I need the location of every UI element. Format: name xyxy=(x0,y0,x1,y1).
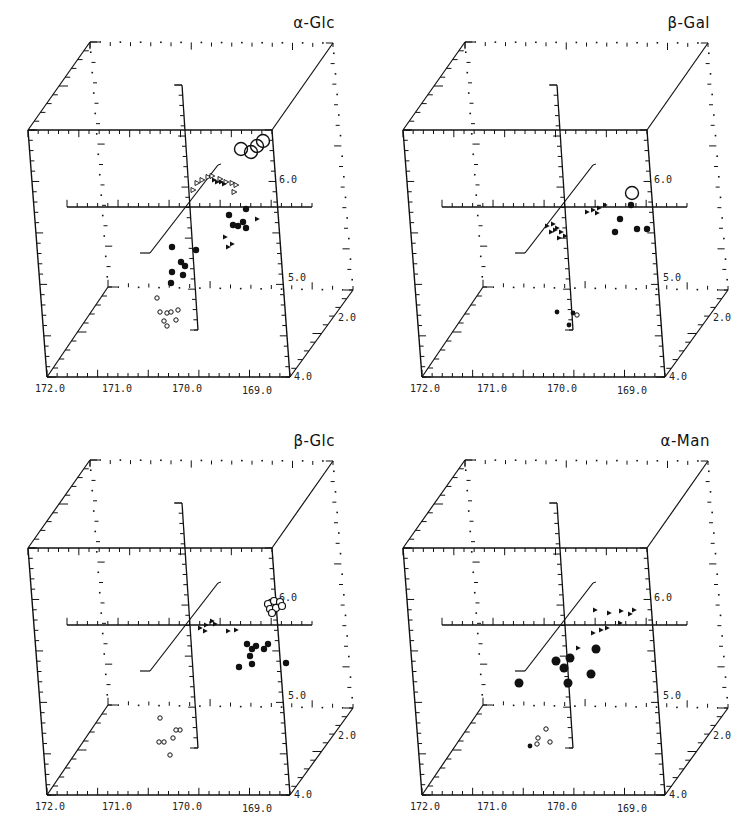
data-point xyxy=(162,740,166,744)
data-point xyxy=(169,310,173,314)
axis-tick-label: 169.0 xyxy=(242,803,272,814)
data-point xyxy=(585,210,590,215)
axis-tick-label: 5.0 xyxy=(288,272,306,283)
data-point xyxy=(557,236,562,241)
data-point xyxy=(593,608,598,613)
panel-title: β-Glc xyxy=(293,432,335,450)
data-point xyxy=(234,628,239,633)
data-point xyxy=(213,622,218,627)
data-point xyxy=(157,740,161,744)
data-point xyxy=(158,310,162,314)
axis-tick-label: 2.0 xyxy=(338,730,356,741)
data-point xyxy=(644,226,650,232)
data-point xyxy=(240,219,246,225)
axis-tick-label: 169.0 xyxy=(617,385,647,396)
data-point xyxy=(174,728,178,732)
data-point xyxy=(548,740,552,744)
data-point xyxy=(619,609,624,614)
panel-beta-gal: 172.0171.0170.0169.06.05.02.04.0 β-Gal xyxy=(375,0,749,418)
data-point xyxy=(171,736,175,740)
axis-tick-label: 172.0 xyxy=(410,383,440,394)
data-point xyxy=(203,629,208,634)
data-point xyxy=(628,202,634,208)
data-point xyxy=(176,308,180,312)
axis-tick-label: 2.0 xyxy=(713,730,731,741)
cube-plot: 172.0171.0170.0169.06.05.02.04.0 xyxy=(0,418,375,836)
data-point xyxy=(555,310,560,315)
cube-plot: 172.0171.0170.0169.06.05.02.04.0 xyxy=(375,418,749,836)
data-point xyxy=(180,272,186,278)
data-point xyxy=(567,323,572,328)
panel-beta-glc: 172.0171.0170.0169.06.05.02.04.0 β-Glc xyxy=(0,418,375,836)
data-point xyxy=(168,280,174,286)
data-point xyxy=(243,206,249,212)
axis-tick-label: 172.0 xyxy=(35,801,65,812)
data-point xyxy=(544,727,548,731)
data-point xyxy=(552,657,561,666)
data-point xyxy=(605,626,610,631)
data-point xyxy=(235,223,241,229)
axis-tick-label: 6.0 xyxy=(654,592,672,603)
data-point xyxy=(236,664,242,670)
panel-title: α-Glc xyxy=(293,14,335,32)
axis-tick-label: 169.0 xyxy=(242,385,272,396)
data-point xyxy=(226,212,232,218)
data-point xyxy=(169,244,175,250)
data-point xyxy=(232,190,237,195)
panel-alpha-glc: 172.0171.0170.0169.06.05.02.04.0 α-Glc xyxy=(0,0,375,418)
axis-tick-label: 2.0 xyxy=(713,312,731,323)
data-point xyxy=(591,631,596,636)
axis-tick-label: 5.0 xyxy=(288,690,306,701)
axis-tick-label: 6.0 xyxy=(654,174,672,185)
data-point xyxy=(515,679,524,688)
data-point xyxy=(560,664,569,673)
data-point xyxy=(182,263,188,269)
axis-tick-label: 170.0 xyxy=(547,801,577,812)
cube-plot: 172.0171.0170.0169.06.05.02.04.0 xyxy=(375,0,749,418)
data-point xyxy=(279,603,286,610)
axis-tick-label: 6.0 xyxy=(279,174,297,185)
data-point xyxy=(162,319,166,323)
data-point xyxy=(249,661,255,667)
axis-tick-label: 170.0 xyxy=(172,801,202,812)
data-point xyxy=(253,643,259,649)
data-point xyxy=(265,641,271,647)
data-point xyxy=(599,628,604,633)
data-point xyxy=(564,679,573,688)
data-point xyxy=(244,641,250,647)
data-point xyxy=(617,216,623,222)
data-point xyxy=(198,626,203,631)
data-point xyxy=(528,744,533,749)
data-point xyxy=(269,610,276,617)
axis-tick-label: 169.0 xyxy=(617,803,647,814)
data-point xyxy=(247,653,253,659)
cube-plot: 172.0171.0170.0169.06.05.02.04.0 xyxy=(0,0,375,418)
data-point xyxy=(535,742,539,746)
data-point xyxy=(632,608,637,613)
axis-tick-label: 2.0 xyxy=(338,312,356,323)
data-point xyxy=(193,247,199,253)
data-point xyxy=(261,646,267,652)
data-point xyxy=(612,229,618,235)
data-point xyxy=(234,183,239,188)
data-point xyxy=(607,611,612,616)
data-point xyxy=(165,324,169,328)
data-point xyxy=(200,178,205,183)
data-point xyxy=(243,225,249,231)
axis-tick-label: 4.0 xyxy=(294,789,312,800)
data-point xyxy=(576,646,581,651)
data-point xyxy=(174,318,178,322)
axis-tick-label: 171.0 xyxy=(477,383,507,394)
data-point xyxy=(195,181,200,186)
data-point xyxy=(155,296,159,300)
data-point xyxy=(587,670,596,679)
data-point xyxy=(626,187,639,200)
axis-tick-label: 5.0 xyxy=(663,272,681,283)
axis-tick-label: 4.0 xyxy=(669,371,687,382)
data-point xyxy=(158,716,162,720)
axis-tick-label: 171.0 xyxy=(102,801,132,812)
axis-tick-label: 4.0 xyxy=(669,789,687,800)
data-point xyxy=(597,206,602,211)
data-point xyxy=(226,629,231,634)
axis-tick-label: 172.0 xyxy=(35,383,65,394)
